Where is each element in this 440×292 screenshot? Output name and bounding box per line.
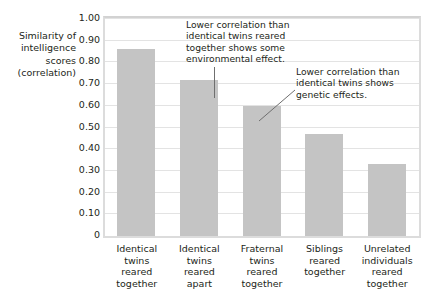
x-axis-category-line: Siblings	[294, 243, 356, 255]
y-axis-title-line: (correlation)	[2, 67, 76, 79]
annotation-line: Lower correlation than	[186, 19, 304, 30]
x-axis-category-line: twins	[106, 255, 168, 267]
y-axis-tick-label: 0.20	[79, 187, 100, 197]
bar-chart-figure: Similarity of intelligence scores (corre…	[0, 0, 440, 292]
x-axis-category-line: reared	[106, 266, 168, 278]
annotation-line: identical twins shows	[296, 77, 416, 88]
x-axis-category-line: Identical	[106, 243, 168, 255]
y-axis-title-line: intelligence	[2, 42, 76, 54]
y-axis-title-line: Similarity of	[2, 30, 76, 42]
y-axis-tick-label: 1.00	[79, 13, 100, 23]
x-axis-category-line: apart	[168, 278, 230, 290]
x-axis-category-line: Fraternal	[231, 243, 293, 255]
annotation-line: genetic effects.	[296, 89, 416, 100]
y-axis-tick-label: 0.70	[79, 78, 100, 88]
bar	[305, 134, 343, 236]
x-axis-category-line: individuals	[356, 255, 418, 267]
y-axis-tick-label: 0	[94, 230, 100, 240]
y-axis-tick-label: 0.50	[79, 122, 100, 132]
y-axis-tick-label: 0.90	[79, 35, 100, 45]
bar	[368, 164, 406, 236]
x-axis-category-line: together	[231, 278, 293, 290]
y-axis-tick-label: 0.40	[79, 143, 100, 153]
x-axis-category-line: together	[106, 278, 168, 290]
x-axis-category-label: Identicaltwinsrearedtogether	[106, 243, 168, 289]
x-axis-category-line: twins	[231, 255, 293, 267]
x-axis-category-line: reared	[294, 255, 356, 267]
annotation-line: environmental effect.	[186, 53, 304, 64]
x-axis-category-label: Unrelatedindividualsrearedtogether	[356, 243, 418, 289]
x-axis-category-line: Identical	[168, 243, 230, 255]
x-axis-category-line: together	[356, 278, 418, 290]
x-axis-category-line: reared	[356, 266, 418, 278]
x-axis-category-line: Unrelated	[356, 243, 418, 255]
x-axis-category-label: Identicaltwinsrearedapart	[168, 243, 230, 289]
bar	[180, 80, 218, 236]
bar	[243, 106, 281, 236]
x-axis-category-line: reared	[231, 266, 293, 278]
y-axis-tick-label: 0.10	[79, 208, 100, 218]
annotation-line: together shows some	[186, 42, 304, 53]
annotation-leader-line-environmental	[214, 67, 215, 98]
x-axis-labels: IdenticaltwinsrearedtogetherIdenticaltwi…	[103, 243, 421, 291]
annotation-line: identical twins reared	[186, 30, 304, 41]
annotation-leader-line-genetic	[259, 90, 295, 121]
y-axis-tick-label: 0.60	[79, 100, 100, 110]
y-axis-tick-label: 0.30	[79, 165, 100, 175]
annotation-genetic: Lower correlation than identical twins s…	[296, 66, 416, 100]
y-axis-title-line: scores	[2, 55, 76, 67]
y-axis-tick-label: 0.80	[79, 56, 100, 66]
bar	[117, 49, 155, 236]
x-axis-category-line: reared	[168, 266, 230, 278]
x-axis-category-line: twins	[168, 255, 230, 267]
x-axis-category-line: together	[294, 266, 356, 278]
x-axis-category-label: Siblingsrearedtogether	[294, 243, 356, 278]
x-axis-category-label: Fraternaltwinsrearedtogether	[231, 243, 293, 289]
annotation-line: Lower correlation than	[296, 66, 416, 77]
y-axis-title: Similarity of intelligence scores (corre…	[2, 30, 76, 80]
annotation-environmental: Lower correlation than identical twins r…	[186, 19, 304, 65]
